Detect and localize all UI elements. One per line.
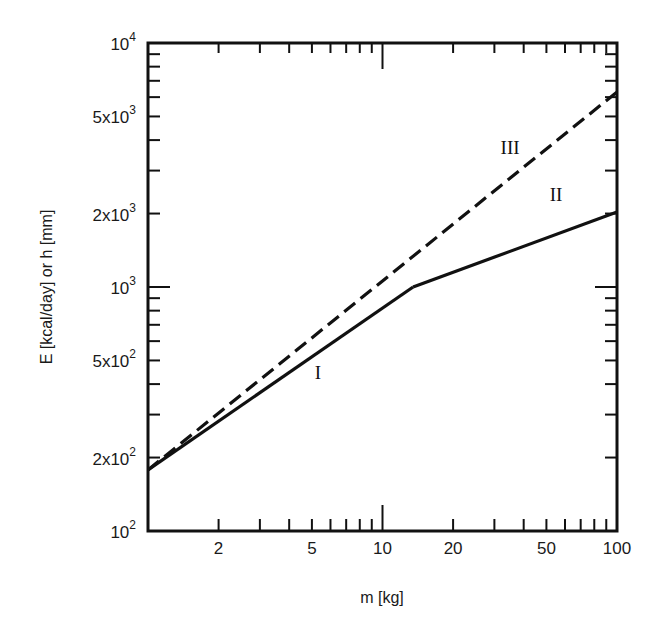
x-tick-label: 50 xyxy=(537,539,556,558)
log-log-chart: 25102050100 1022x1025x1021032x1035x10310… xyxy=(0,0,661,643)
curve-label-II: II xyxy=(550,184,563,205)
y-tick-label: 2x102 xyxy=(92,445,136,469)
y-tick-label: 5x102 xyxy=(92,347,136,371)
x-tick-labels: 25102050100 xyxy=(214,539,631,558)
curve-I xyxy=(148,287,413,470)
curves xyxy=(148,92,617,470)
x-tick-label: 100 xyxy=(603,539,631,558)
x-tick-label: 5 xyxy=(307,539,316,558)
curve-III xyxy=(148,92,617,470)
y-tick-label: 2x103 xyxy=(92,201,136,225)
x-tick-label: 10 xyxy=(373,539,392,558)
axis-ticks xyxy=(148,43,617,531)
curve-labels: IIIIII xyxy=(315,137,563,383)
curve-label-I: I xyxy=(315,362,321,383)
x-tick-label: 20 xyxy=(444,539,463,558)
y-tick-label: 102 xyxy=(110,518,136,542)
y-tick-label: 104 xyxy=(110,30,136,54)
curve-II xyxy=(413,212,617,287)
y-tick-label: 103 xyxy=(110,274,136,298)
curve-label-III: III xyxy=(501,137,520,158)
y-tick-labels: 1022x1025x1021032x1035x103104 xyxy=(92,30,136,542)
y-tick-label: 5x103 xyxy=(92,103,136,127)
x-tick-label: 2 xyxy=(214,539,223,558)
plot-frame xyxy=(148,43,617,531)
x-axis-title: m [kg] xyxy=(360,589,404,606)
y-axis-title: E [kcal/day] or h [mm] xyxy=(38,210,55,365)
